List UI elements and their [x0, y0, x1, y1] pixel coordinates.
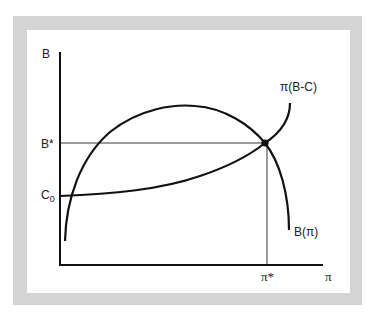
x-axis-label: π — [325, 270, 332, 283]
c-zero-main: C — [41, 188, 50, 202]
equilibrium-point — [261, 139, 268, 146]
c-zero-subscript: 0 — [50, 194, 55, 204]
b-star-label: B* — [41, 138, 54, 150]
benefit-curve-label: B(π) — [294, 226, 318, 238]
c-zero-label: C0 — [41, 189, 55, 204]
benefit-curve — [65, 106, 289, 241]
diagram-canvas — [0, 0, 376, 317]
pi-star-label: π* — [261, 270, 274, 283]
cost-curve-label: π(B-C) — [280, 81, 317, 93]
y-axis-label: B — [42, 48, 50, 60]
